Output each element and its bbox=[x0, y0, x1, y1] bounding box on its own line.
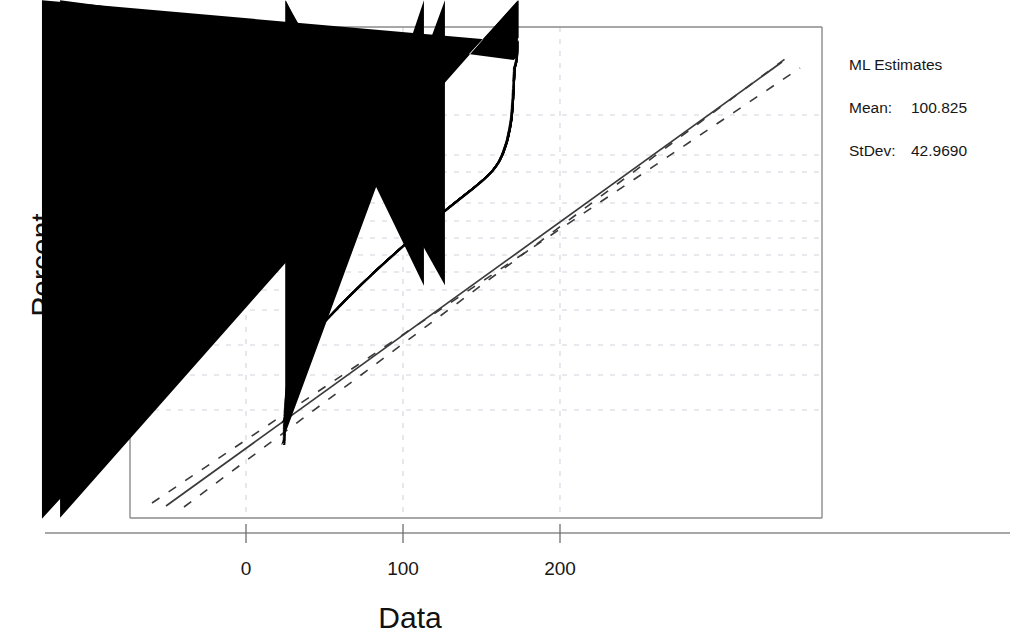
legend-value-stdev: 42.9690 bbox=[911, 142, 967, 160]
normal-probability-plot: 99 95 90 80 70 60 50 40 30 20 10 5 1 Per… bbox=[0, 0, 1017, 644]
x-axis-title: Data bbox=[378, 601, 442, 634]
legend-row-mean: Mean: 100.825 bbox=[849, 99, 1009, 117]
legend-value-mean: 100.825 bbox=[911, 99, 967, 117]
legend-title: ML Estimates bbox=[849, 56, 1009, 74]
legend-row-stdev: StDev: 42.9690 bbox=[849, 142, 1009, 160]
legend-label-stdev: StDev: bbox=[849, 142, 911, 160]
x-tick-label-100: 100 bbox=[387, 558, 419, 579]
legend-label-mean: Mean: bbox=[849, 99, 911, 117]
x-tick-label-200: 200 bbox=[544, 558, 576, 579]
x-tick-label-0: 0 bbox=[241, 558, 252, 579]
ml-estimates-legend: ML Estimates Mean: 100.825 StDev: 42.969… bbox=[849, 56, 1009, 160]
